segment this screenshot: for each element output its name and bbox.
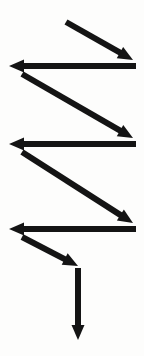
- arrow-path-diagram: [0, 0, 144, 356]
- arrow-canvas: [0, 0, 144, 356]
